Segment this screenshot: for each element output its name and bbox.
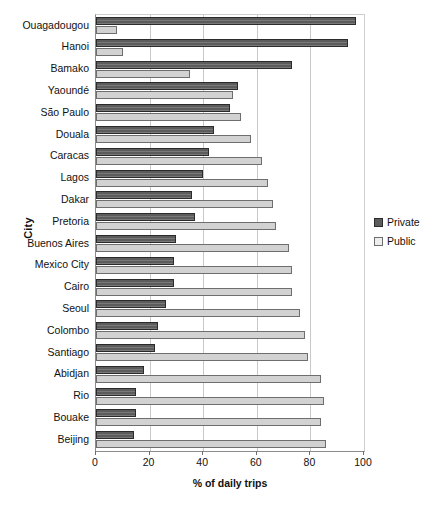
bar-group: [96, 342, 364, 364]
bar-private: [96, 191, 192, 199]
legend-label-private: Private: [387, 216, 420, 228]
bar-public: [96, 70, 190, 78]
bar-public: [96, 48, 123, 56]
y-axis-category-label: Ouagadougou: [12, 14, 92, 36]
bar-public: [96, 266, 292, 274]
bar-public: [96, 353, 308, 361]
y-axis-category-label: Pretoria: [12, 210, 92, 232]
bar-public: [96, 135, 251, 143]
y-axis-category-label: Cairo: [12, 276, 92, 298]
y-axis-category-label: São Paulo: [12, 101, 92, 123]
y-axis-category-label: Dakar: [12, 188, 92, 210]
y-axis-category-label: Hanoi: [12, 36, 92, 58]
y-axis-category-label: Bamako: [12, 58, 92, 80]
legend-label-public: Public: [387, 235, 416, 247]
x-axis-tick-label: 100: [354, 456, 372, 468]
bar-group: [96, 124, 364, 146]
y-axis-category-label: Mexico City: [12, 254, 92, 276]
y-axis-category-label: Caracas: [12, 145, 92, 167]
legend: Private Public: [374, 216, 420, 247]
x-axis-tick-label: 80: [304, 456, 316, 468]
bar-group: [96, 80, 364, 102]
y-axis-category-label: Yaoundé: [12, 79, 92, 101]
bar-group: [96, 15, 364, 37]
x-axis-tick-mark: [149, 451, 150, 455]
bar-private: [96, 82, 238, 90]
y-axis-category-label: Santiago: [12, 341, 92, 363]
y-axis-category-label: Bouake: [12, 406, 92, 428]
bar-public: [96, 440, 326, 448]
y-axis-category-labels: OuagadougouHanoiBamakoYaoundéSão PauloDo…: [12, 14, 92, 450]
y-axis-category-label: Lagos: [12, 167, 92, 189]
y-axis-category-label: Rio: [12, 385, 92, 407]
bar-group: [96, 255, 364, 277]
x-axis-tick-label: 60: [250, 456, 262, 468]
bar-group: [96, 189, 364, 211]
bar-group: [96, 386, 364, 408]
bar-group: [96, 146, 364, 168]
y-axis-category-label: Beijing: [12, 428, 92, 450]
bar-private: [96, 39, 348, 47]
bar-chart: City OuagadougouHanoiBamakoYaoundéSão Pa…: [0, 0, 443, 505]
x-axis-tick-mark: [202, 451, 203, 455]
x-axis-title: % of daily trips: [95, 477, 365, 489]
bar-private: [96, 388, 136, 396]
x-axis-tick-mark: [256, 451, 257, 455]
bar-private: [96, 126, 214, 134]
x-axis-tick-mark: [95, 451, 96, 455]
bar-group: [96, 407, 364, 429]
bar-private: [96, 322, 158, 330]
legend-item-private: Private: [374, 216, 420, 228]
bar-group: [96, 320, 364, 342]
bar-private: [96, 344, 155, 352]
bar-group: [96, 59, 364, 81]
bar-private: [96, 279, 174, 287]
bar-group: [96, 364, 364, 386]
y-axis-category-label: Buenos Aires: [12, 232, 92, 254]
legend-item-public: Public: [374, 235, 420, 247]
bar-group: [96, 37, 364, 59]
bar-public: [96, 397, 324, 405]
bar-public: [96, 309, 300, 317]
bar-public: [96, 331, 305, 339]
bar-group: [96, 211, 364, 233]
legend-swatch-private-icon: [374, 218, 383, 227]
bar-private: [96, 104, 230, 112]
bars-layer: [96, 15, 364, 451]
bar-group: [96, 429, 364, 451]
x-axis-tick-label: 20: [143, 456, 155, 468]
bar-public: [96, 113, 241, 121]
bar-public: [96, 26, 117, 34]
plot-area: [95, 14, 365, 452]
bar-public: [96, 157, 262, 165]
x-axis-tick-labels: 020406080100: [95, 456, 365, 472]
bar-public: [96, 179, 268, 187]
legend-swatch-public-icon: [374, 237, 383, 246]
bar-public: [96, 91, 233, 99]
bar-public: [96, 244, 289, 252]
bar-public: [96, 200, 273, 208]
bar-private: [96, 366, 144, 374]
bar-group: [96, 233, 364, 255]
bar-public: [96, 288, 292, 296]
y-axis-category-label: Colombo: [12, 319, 92, 341]
x-axis-tick-label: 40: [196, 456, 208, 468]
y-axis-category-label: Douala: [12, 123, 92, 145]
bar-public: [96, 222, 276, 230]
bar-public: [96, 375, 321, 383]
x-axis-tick-mark: [309, 451, 310, 455]
bar-private: [96, 170, 203, 178]
x-axis-tick-label: 0: [92, 456, 98, 468]
bar-private: [96, 213, 195, 221]
x-axis-tick-mark: [363, 451, 364, 455]
y-axis-category-label: Seoul: [12, 297, 92, 319]
bar-group: [96, 277, 364, 299]
bar-private: [96, 235, 176, 243]
bar-group: [96, 168, 364, 190]
bar-private: [96, 431, 134, 439]
bar-group: [96, 298, 364, 320]
bar-private: [96, 257, 174, 265]
bar-private: [96, 300, 166, 308]
y-axis-category-label: Abidjan: [12, 363, 92, 385]
bar-private: [96, 61, 292, 69]
